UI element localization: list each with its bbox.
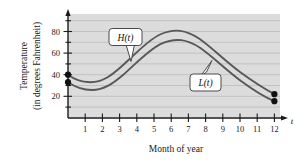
y-axis-title-line2: (in degrees Fahrenheit): [32, 22, 43, 110]
endpoint-marker-L-start: [65, 79, 71, 85]
callout-H-label: H(t): [117, 33, 134, 44]
x-tick-label-1: 1: [83, 124, 87, 134]
y-tick-label-20: 20: [52, 91, 61, 101]
x-tick-label-2: 2: [100, 124, 104, 134]
endpoint-marker-L-end: [271, 98, 277, 104]
temperature-chart-figure: 80 60 40 20 Temperature (in degrees Fahr…: [0, 0, 301, 168]
callout-L-label: L(t): [197, 78, 212, 89]
x-axis-variable-label: t: [291, 116, 294, 126]
y-tick-label-80: 80: [52, 27, 61, 37]
x-tick-label-8: 8: [203, 124, 207, 134]
x-tick-label-9: 9: [221, 124, 225, 134]
x-tick-label-6: 6: [169, 124, 173, 134]
y-axis-title-line1: Temperature: [19, 42, 29, 90]
plot-background: [68, 14, 280, 117]
x-tick-label-10: 10: [236, 124, 245, 134]
y-axis-title: Temperature (in degrees Fahrenheit): [19, 22, 43, 110]
chart-canvas: 80 60 40 20 Temperature (in degrees Fahr…: [0, 0, 301, 168]
endpoint-marker-H-start: [65, 72, 71, 78]
y-tick-label-60: 60: [52, 48, 61, 58]
y-axis-arrowhead: [65, 9, 70, 16]
y-tick-label-40: 40: [52, 70, 61, 80]
x-tick-label-4: 4: [135, 124, 140, 134]
x-tick-label-3: 3: [117, 124, 121, 134]
x-tick-label-11: 11: [253, 124, 261, 134]
x-axis-tick-labels: 1 2 3 4 5 6 7 8 9 10 11 12: [83, 124, 279, 134]
x-tick-label-5: 5: [152, 124, 156, 134]
y-axis-tick-labels: 80 60 40 20: [52, 27, 61, 102]
x-axis-arrowhead: [281, 115, 288, 120]
x-axis-title: Month of year: [149, 144, 204, 154]
x-tick-label-12: 12: [270, 124, 279, 134]
x-tick-label-7: 7: [186, 124, 190, 134]
endpoint-marker-H-end: [271, 91, 277, 97]
